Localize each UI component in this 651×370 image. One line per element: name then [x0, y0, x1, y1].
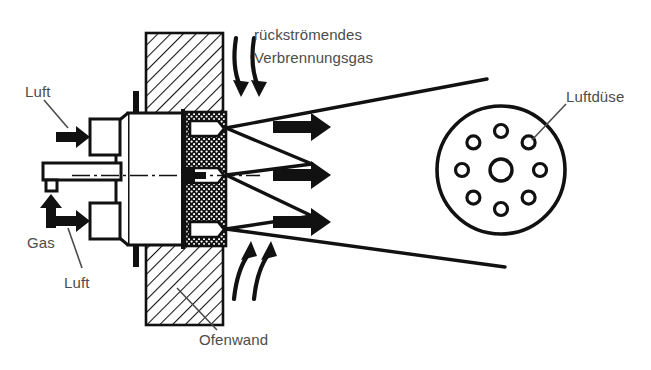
air-inlet-top	[90, 119, 120, 155]
label-recirculating-gas-line1: rückströmendes	[254, 26, 362, 43]
nozzle-hole-nw	[467, 136, 480, 149]
gas-pipe-body	[43, 163, 121, 180]
label-air-nozzle: Luftdüse	[566, 88, 624, 105]
nozzle-hole-s	[495, 203, 508, 216]
air-inlet-bottom-box	[90, 203, 120, 239]
nozzle-hole-center	[490, 159, 512, 181]
label-air-bottom: Luft	[64, 274, 90, 291]
label-furnace-wall: Ofenwand	[199, 331, 268, 348]
refractory-block	[185, 112, 226, 246]
nozzle-hole-e	[534, 164, 547, 177]
gas-pipe-nipple	[46, 180, 57, 191]
burner-barrel	[128, 113, 183, 245]
label-air-top: Luft	[25, 83, 51, 100]
nozzle-hole-sw	[467, 191, 480, 204]
air-inlet-bottom	[90, 203, 120, 239]
flow-arrows	[273, 113, 331, 236]
nozzle-hole-n	[495, 125, 508, 138]
furnace-wall-upper-block	[146, 33, 223, 118]
air-inlet-top-box	[90, 119, 120, 155]
label-gas: Gas	[27, 234, 55, 251]
figure-canvas: Luft Luft Gas rückströmendes Verbrennung…	[0, 0, 651, 370]
burner-diagram: Luft Luft Gas rückströmendes Verbrennung…	[0, 0, 651, 370]
nozzle-hole-se	[522, 191, 535, 204]
label-recirculating-gas-line2: Verbrennungsgas	[254, 49, 373, 66]
nozzle-channel-top	[190, 121, 224, 136]
nozzle-channel-bottom	[190, 222, 224, 237]
furnace-wall-lower-block	[146, 240, 223, 325]
burner-body	[116, 109, 183, 249]
nozzle-hole-w	[456, 164, 469, 177]
